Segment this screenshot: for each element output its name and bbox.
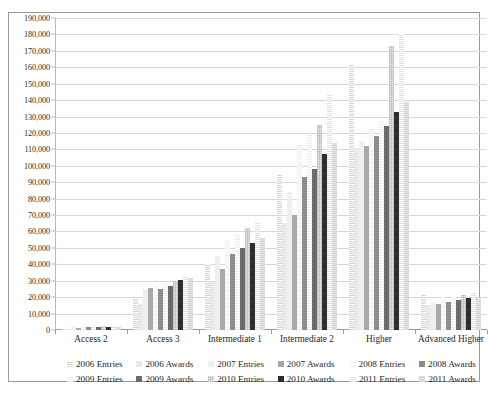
bar bbox=[456, 300, 460, 330]
y-axis-tick-label: 50,000 bbox=[28, 243, 50, 252]
bar bbox=[461, 295, 465, 330]
legend-item[interactable]: 2008 Entries bbox=[338, 356, 409, 371]
bar bbox=[317, 125, 321, 330]
y-axis-tick-label: 0 bbox=[46, 326, 50, 335]
bar bbox=[327, 95, 331, 330]
y-axis-tick-label: 130,000 bbox=[24, 112, 50, 121]
x-axis-tick-mark bbox=[271, 330, 272, 334]
bar bbox=[188, 278, 192, 330]
legend-item[interactable]: 2011 Awards bbox=[408, 371, 479, 386]
bar bbox=[404, 102, 408, 330]
legend-item[interactable]: 2010 Awards bbox=[267, 371, 338, 386]
bar bbox=[426, 305, 430, 330]
bar bbox=[240, 248, 244, 330]
bar bbox=[245, 228, 249, 330]
bar-group bbox=[127, 18, 199, 330]
bar bbox=[297, 144, 301, 330]
legend-label: 2010 Awards bbox=[287, 374, 335, 384]
y-axis-tick-label: 60,000 bbox=[28, 227, 50, 236]
y-axis-tick-label: 120,000 bbox=[24, 128, 50, 137]
x-axis-category-label: Access 3 bbox=[146, 334, 179, 344]
y-axis-tick-label: 40,000 bbox=[28, 260, 50, 269]
chart-legend: 2006 Entries2006 Awards2007 Entries2007 … bbox=[55, 356, 479, 386]
legend-item[interactable]: 2009 Entries bbox=[55, 371, 126, 386]
legend-item[interactable]: 2011 Entries bbox=[338, 371, 409, 386]
bar bbox=[178, 280, 182, 330]
legend-item[interactable]: 2009 Awards bbox=[126, 371, 197, 386]
legend-label: 2007 Entries bbox=[217, 359, 264, 369]
bar-group bbox=[271, 18, 343, 330]
bar bbox=[451, 296, 455, 330]
legend-item[interactable]: 2008 Awards bbox=[408, 356, 479, 371]
bar bbox=[369, 128, 373, 330]
bar bbox=[91, 326, 95, 330]
bar bbox=[446, 302, 450, 330]
bar bbox=[307, 135, 311, 330]
y-axis-tick-label: 10,000 bbox=[28, 309, 50, 318]
y-axis: 190,000180,000170,000160,000150,000140,0… bbox=[9, 18, 55, 330]
x-axis-category-label: Higher bbox=[366, 334, 392, 344]
legend-label: 2011 Entries bbox=[359, 374, 405, 384]
bar bbox=[153, 286, 157, 330]
bar bbox=[143, 289, 147, 330]
bar bbox=[183, 277, 187, 330]
bar bbox=[471, 293, 475, 330]
y-axis-tick-label: 70,000 bbox=[28, 211, 50, 220]
bar bbox=[364, 146, 368, 330]
legend-item[interactable]: 2006 Entries bbox=[55, 356, 126, 371]
bar bbox=[225, 240, 229, 330]
bar bbox=[116, 327, 120, 330]
legend-swatch-icon bbox=[278, 361, 284, 367]
legend-item[interactable]: 2007 Entries bbox=[196, 356, 267, 371]
bar bbox=[332, 143, 336, 330]
bar bbox=[163, 285, 167, 330]
legend-swatch-icon bbox=[419, 361, 425, 367]
bar bbox=[230, 254, 234, 330]
bar bbox=[133, 296, 137, 330]
bar bbox=[158, 289, 162, 330]
legend-label: 2008 Awards bbox=[428, 359, 476, 369]
x-axis-tick-mark bbox=[55, 330, 56, 334]
bar bbox=[441, 297, 445, 330]
legend-swatch-icon bbox=[67, 361, 73, 367]
bar bbox=[255, 222, 259, 330]
bar bbox=[312, 169, 316, 330]
bar bbox=[322, 154, 326, 330]
legend-swatch-icon bbox=[208, 361, 214, 367]
bar bbox=[359, 141, 363, 330]
legend-swatch-icon bbox=[350, 361, 356, 367]
legend-swatch-icon bbox=[136, 361, 142, 367]
legend-label: 2010 Entries bbox=[217, 374, 264, 384]
bar-group bbox=[199, 18, 271, 330]
bar bbox=[210, 282, 214, 330]
bar bbox=[302, 177, 306, 330]
legend-item[interactable]: 2006 Awards bbox=[126, 356, 197, 371]
bar bbox=[466, 298, 470, 330]
bar bbox=[476, 297, 480, 330]
bar bbox=[81, 327, 85, 330]
x-axis-category-label: Intermediate 1 bbox=[208, 334, 262, 344]
x-axis-tick-mark bbox=[343, 330, 344, 334]
bar bbox=[431, 303, 435, 330]
legend-item[interactable]: 2010 Entries bbox=[196, 371, 267, 386]
bar bbox=[138, 304, 142, 330]
bar bbox=[106, 327, 110, 330]
bar bbox=[168, 286, 172, 330]
legend-item[interactable]: 2007 Awards bbox=[267, 356, 338, 371]
bar bbox=[173, 281, 177, 330]
bar-group bbox=[343, 18, 415, 330]
legend-label: 2006 Entries bbox=[76, 359, 123, 369]
bar bbox=[101, 326, 105, 330]
y-axis-tick-label: 90,000 bbox=[28, 178, 50, 187]
bar bbox=[71, 327, 75, 330]
bar bbox=[61, 328, 65, 330]
bar bbox=[292, 215, 296, 330]
y-axis-tick-label: 190,000 bbox=[24, 14, 50, 23]
x-axis-tick-mark bbox=[127, 330, 128, 334]
legend-swatch-icon bbox=[136, 376, 142, 382]
bar bbox=[76, 328, 80, 330]
y-axis-tick-label: 150,000 bbox=[24, 79, 50, 88]
chart-frame: 190,000180,000170,000160,000150,000140,0… bbox=[8, 12, 480, 382]
y-axis-tick-label: 80,000 bbox=[28, 194, 50, 203]
x-axis-tick-mark bbox=[199, 330, 200, 334]
